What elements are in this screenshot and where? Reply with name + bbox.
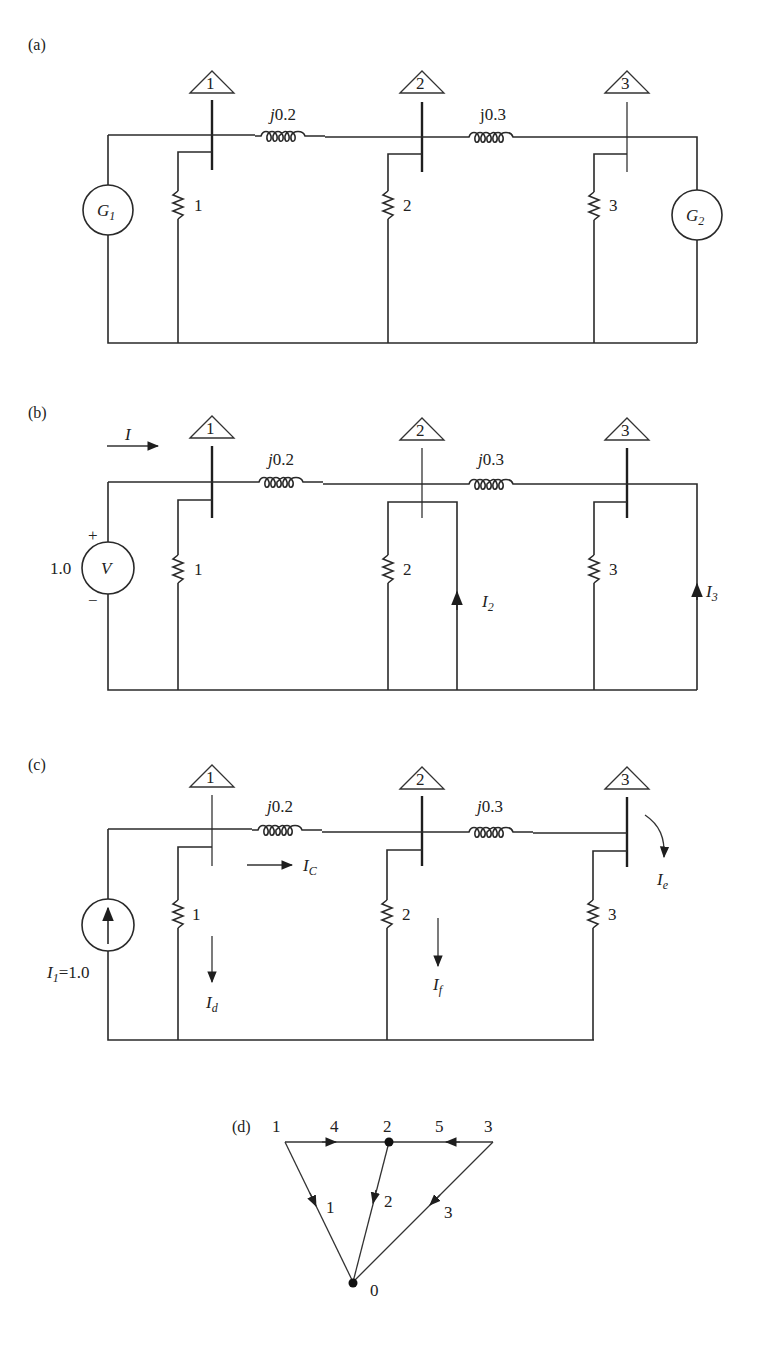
bus-1-marker: 1 — [190, 416, 234, 438]
bus-2-label: 2 — [416, 770, 425, 789]
panel-a-label: (a) — [28, 36, 46, 54]
node-3-label: 3 — [484, 1117, 493, 1136]
resistor-1-icon — [173, 191, 183, 219]
resistor-2-label: 2 — [403, 560, 412, 579]
figure-canvas: (a) 1 2 3 j0.2 j0.3 G1 — [0, 0, 765, 1350]
panel-d-graph: (d) 1 2 3 0 4 5 1 2 3 — [232, 1117, 493, 1300]
resistor-3-icon — [588, 900, 598, 928]
resistor-3-label: 3 — [609, 560, 618, 579]
resistor-1-icon — [173, 555, 183, 583]
bus-2-marker: 2 — [400, 767, 444, 789]
bus-1-marker: 1 — [190, 71, 234, 93]
inductor-j0.2 — [255, 132, 325, 142]
node-1-label: 1 — [272, 1117, 281, 1136]
resistor-1-label: 1 — [194, 560, 203, 579]
current-if-label: If — [432, 975, 444, 997]
node-0-dot — [349, 1279, 358, 1288]
bus-2-label: 2 — [416, 74, 425, 93]
node-0-label: 0 — [370, 1281, 379, 1300]
node-2-label: 2 — [383, 1117, 392, 1136]
panel-b: (b) I 1 2 3 j0.2 j0.3 V 1.0 + — [28, 404, 718, 690]
current-ic-label: IC — [302, 856, 318, 878]
edge-3-label: 3 — [444, 1203, 453, 1222]
bus-1-marker: 1 — [190, 765, 234, 787]
bus-3-marker: 3 — [605, 71, 649, 93]
resistor-2-label: 2 — [402, 905, 411, 924]
resistor-3-icon — [589, 555, 599, 583]
bus-1-label: 1 — [206, 74, 215, 93]
inductor-j0.2 — [252, 826, 322, 836]
current-source-label: I1=1.0 — [46, 963, 90, 985]
inductor-j0.2 — [253, 478, 323, 488]
edge-5-label: 5 — [435, 1117, 444, 1136]
current-i-label: I — [124, 425, 132, 444]
current-id-label: Id — [205, 993, 219, 1015]
generator-g2-label: G2 — [686, 206, 704, 228]
reactance-2-3-label: j0.3 — [476, 450, 504, 469]
resistor-2-label: 2 — [403, 196, 412, 215]
reactance-2-3-label: j0.3 — [479, 105, 506, 124]
inductor-j0.3 — [463, 480, 533, 490]
bus-3-label: 3 — [621, 421, 630, 440]
current-i3-label: I3 — [705, 582, 718, 604]
current-i2-label: I2 — [481, 592, 494, 614]
generator-g1-label: G1 — [97, 201, 115, 223]
resistor-3-icon — [589, 192, 599, 220]
minus-sign: − — [88, 591, 98, 610]
plus-sign: + — [88, 526, 98, 545]
reactance-1-2-label: j0.2 — [266, 450, 294, 469]
edge-4-label: 4 — [330, 1117, 339, 1136]
bus-2-label: 2 — [416, 421, 425, 440]
panel-c-label: (c) — [28, 756, 46, 774]
panel-c: (c) 1 2 3 j0.2 j0.3 I1=1.0 IC — [28, 756, 669, 1040]
node-2-dot — [385, 1138, 394, 1147]
edge-1 — [285, 1142, 353, 1282]
bus-3-label: 3 — [621, 74, 630, 93]
voltage-source-symbol: V — [101, 559, 114, 578]
voltage-source-value: 1.0 — [50, 559, 71, 578]
edge-1-label: 1 — [326, 1198, 335, 1217]
inductor-j0.3 — [463, 828, 533, 838]
panel-a: (a) 1 2 3 j0.2 j0.3 G1 — [28, 36, 722, 343]
reactance-1-2-label: j0.2 — [265, 797, 293, 816]
edge-2-label: 2 — [384, 1192, 393, 1211]
edge-1-arrow — [310, 1193, 316, 1206]
bus-3-label: 3 — [621, 770, 630, 789]
edge-3-arrow — [430, 1195, 440, 1205]
reactance-2-3-label: j0.3 — [475, 797, 503, 816]
bus-1-label: 1 — [206, 768, 215, 787]
resistor-1-label: 1 — [194, 196, 203, 215]
panel-b-label: (b) — [28, 404, 47, 422]
resistor-3-label: 3 — [609, 196, 618, 215]
inductor-j0.3 — [463, 133, 533, 143]
bus-2-marker: 2 — [400, 71, 444, 93]
resistor-1-icon — [173, 900, 183, 928]
resistor-2-icon — [383, 191, 393, 219]
resistor-2-icon — [382, 900, 392, 928]
current-ie-arrow — [645, 815, 664, 857]
bus-3-marker: 3 — [605, 418, 649, 440]
current-ie-label: Ie — [656, 870, 669, 892]
reactance-1-2-label: j0.2 — [268, 105, 296, 124]
bus-3-marker: 3 — [605, 767, 649, 789]
panel-d-label: (d) — [232, 1118, 251, 1136]
resistor-1-label: 1 — [192, 905, 201, 924]
bus-2-marker: 2 — [400, 418, 444, 440]
resistor-2-icon — [383, 555, 393, 583]
edge-2 — [353, 1142, 389, 1282]
edge-3 — [353, 1142, 493, 1282]
resistor-3-label: 3 — [608, 905, 617, 924]
bus-1-label: 1 — [206, 419, 215, 438]
